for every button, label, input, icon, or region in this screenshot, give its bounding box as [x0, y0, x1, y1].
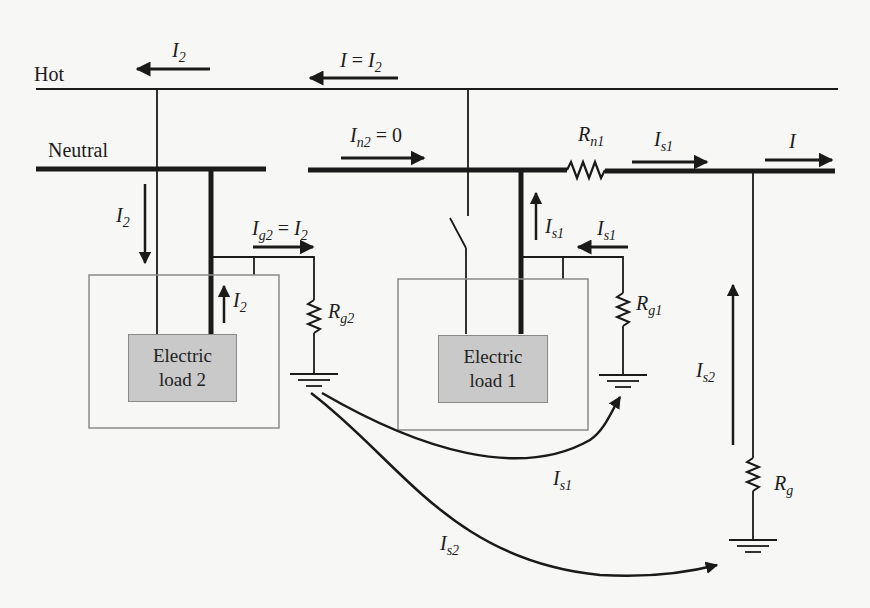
- resistor-rg1: [617, 293, 629, 326]
- label-earth-is1: Is1: [553, 468, 572, 488]
- label-neutral-down-left: I2: [116, 205, 130, 225]
- label-rg1: Rg1: [636, 293, 662, 313]
- label-load2-up: I2: [233, 290, 247, 310]
- label-hot-right: I = I2: [340, 50, 382, 70]
- load1-label-line2: load 1: [470, 369, 517, 393]
- load1-label-line1: Electric: [463, 345, 522, 369]
- load2-label-line2: load 2: [159, 368, 206, 392]
- label-ig2: Ig2 = I2: [252, 218, 308, 238]
- label-is1-right: Is1: [654, 129, 673, 149]
- electric-load-1: Electric load 1: [438, 335, 548, 403]
- electric-load-2: Electric load 2: [128, 334, 237, 402]
- resistor-rn1: [567, 162, 605, 178]
- label-rn1: Rn1: [578, 124, 604, 144]
- label-i-right: I: [789, 131, 796, 151]
- resistor-rg: [747, 458, 759, 491]
- circuit-diagram: [0, 0, 870, 608]
- hot-label: Hot: [34, 64, 64, 84]
- load2-ground-wire: [211, 257, 314, 300]
- label-hot-left: I2: [172, 40, 186, 60]
- label-rg: Rg: [774, 473, 793, 493]
- load1-ground-wire: [521, 257, 623, 293]
- neutral-label: Neutral: [48, 140, 108, 160]
- load1-switch: [450, 218, 466, 248]
- label-rg2: Rg2: [328, 301, 354, 321]
- label-earth-is2: Is2: [440, 533, 459, 553]
- resistor-rg2: [308, 300, 320, 333]
- label-is1-up: Is1: [545, 216, 564, 236]
- label-is2-up: Is2: [696, 360, 715, 380]
- label-is1-left: Is1: [597, 218, 616, 238]
- load2-label-line1: Electric: [153, 344, 212, 368]
- label-in2: In2 = 0: [350, 125, 402, 145]
